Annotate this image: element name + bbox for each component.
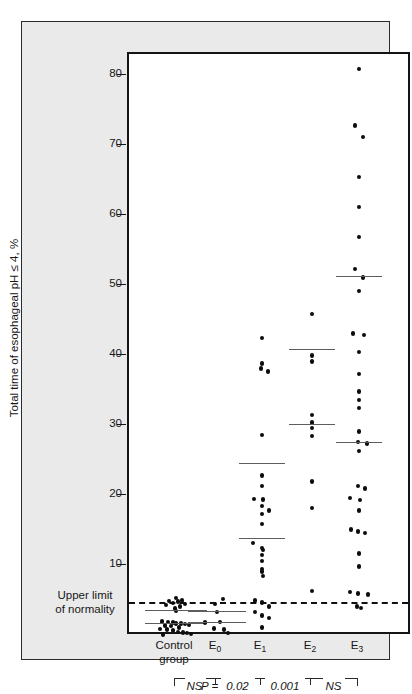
data-point bbox=[357, 372, 362, 377]
data-point bbox=[259, 366, 264, 371]
data-point bbox=[357, 350, 362, 355]
data-point bbox=[260, 512, 265, 517]
data-point bbox=[357, 551, 362, 556]
data-point bbox=[213, 602, 218, 607]
data-point bbox=[176, 630, 181, 635]
data-point bbox=[261, 574, 266, 579]
y-tick-mark bbox=[117, 144, 126, 145]
y-tick-label: 20 bbox=[38, 488, 122, 500]
data-point bbox=[267, 616, 272, 621]
data-point bbox=[260, 473, 265, 478]
mean-line bbox=[336, 276, 382, 277]
y-tick-mark bbox=[117, 214, 126, 215]
threshold-caption-line: of normality bbox=[46, 602, 124, 616]
data-point bbox=[252, 497, 257, 502]
data-point bbox=[310, 426, 315, 431]
data-point bbox=[357, 175, 362, 180]
threshold-caption-line: Upper limit bbox=[46, 588, 124, 602]
data-point bbox=[363, 531, 368, 536]
y-tick-label: 50 bbox=[38, 278, 122, 290]
data-point bbox=[260, 613, 265, 618]
data-point bbox=[310, 589, 315, 594]
p-value-row: P = NS0.020.001NS bbox=[43, 677, 412, 694]
data-point bbox=[260, 504, 265, 509]
mean-line bbox=[239, 463, 285, 464]
data-point bbox=[310, 434, 315, 439]
y-tick-mark bbox=[117, 494, 126, 495]
p-value-tick bbox=[260, 678, 261, 685]
mean-line bbox=[336, 442, 382, 443]
data-point bbox=[357, 449, 362, 454]
x-axis-label-subscript: 1 bbox=[261, 644, 266, 654]
p-value-bracket bbox=[206, 678, 216, 686]
data-point bbox=[164, 603, 169, 608]
y-tick-mark bbox=[117, 424, 126, 425]
y-tick-label: 80 bbox=[38, 68, 122, 80]
data-point bbox=[260, 336, 265, 341]
x-axis-label-subscript: 3 bbox=[358, 644, 363, 654]
data-point bbox=[260, 361, 265, 366]
x-axis-label: E2 bbox=[304, 638, 316, 655]
p-value-label: NS bbox=[187, 680, 203, 692]
y-tick-label: 10 bbox=[38, 558, 122, 570]
data-point bbox=[267, 508, 272, 513]
data-point bbox=[253, 598, 258, 603]
data-point bbox=[183, 602, 188, 607]
data-point bbox=[310, 353, 315, 358]
data-point bbox=[356, 484, 361, 489]
y-tick-label: 70 bbox=[38, 138, 122, 150]
data-point bbox=[260, 600, 265, 605]
data-point bbox=[357, 235, 362, 240]
plot-area bbox=[127, 52, 410, 634]
data-point bbox=[310, 312, 315, 317]
data-point bbox=[267, 604, 272, 609]
y-tick-mark bbox=[117, 354, 126, 355]
data-point bbox=[261, 497, 266, 502]
data-point bbox=[261, 548, 266, 553]
mean-line bbox=[239, 538, 285, 539]
data-point bbox=[356, 529, 361, 534]
data-point bbox=[171, 628, 176, 633]
y-tick-mark bbox=[117, 284, 126, 285]
data-point bbox=[366, 592, 371, 597]
data-point bbox=[253, 610, 258, 615]
x-axis-label-subscript: 0 bbox=[216, 644, 221, 654]
data-point bbox=[310, 479, 315, 484]
data-point bbox=[260, 433, 265, 438]
data-point bbox=[357, 67, 362, 72]
y-tick-mark bbox=[117, 564, 126, 565]
data-point bbox=[357, 564, 362, 569]
x-axis-label: Controlgroup bbox=[155, 638, 192, 666]
data-point bbox=[358, 498, 363, 503]
data-point bbox=[310, 413, 315, 418]
data-point bbox=[359, 606, 364, 611]
data-point bbox=[212, 626, 217, 631]
x-axis-label: E1 bbox=[254, 638, 266, 655]
p-value-bracket bbox=[310, 678, 323, 686]
data-point bbox=[362, 333, 367, 338]
upper-limit-of-normality-label: Upper limitof normality bbox=[46, 588, 124, 616]
data-point bbox=[260, 484, 265, 489]
data-point bbox=[356, 591, 361, 596]
x-axis-label-subscript: 2 bbox=[311, 644, 316, 654]
data-point bbox=[348, 590, 353, 595]
figure-panel: 1020304050607080 Total time of esophagea… bbox=[21, 21, 390, 660]
y-tick-mark bbox=[117, 74, 126, 75]
data-point bbox=[357, 406, 362, 411]
data-point bbox=[363, 486, 368, 491]
data-point bbox=[351, 331, 356, 336]
p-value-bracket bbox=[174, 678, 185, 686]
data-point bbox=[165, 627, 170, 632]
data-point bbox=[178, 604, 183, 609]
data-point bbox=[171, 601, 176, 606]
data-point bbox=[158, 627, 163, 632]
data-point bbox=[357, 289, 362, 294]
data-point bbox=[353, 123, 358, 128]
mean-line bbox=[289, 349, 335, 350]
data-point bbox=[348, 496, 353, 501]
data-point bbox=[310, 506, 315, 511]
data-point bbox=[266, 369, 271, 374]
p-value-label: 0.02 bbox=[226, 680, 248, 692]
data-point bbox=[361, 135, 366, 140]
